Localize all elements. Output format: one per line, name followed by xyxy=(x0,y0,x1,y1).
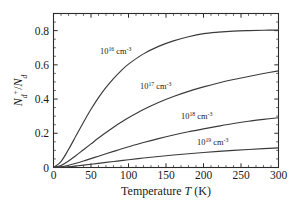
data-curve xyxy=(54,118,279,168)
y-tick-label: 0.8 xyxy=(35,25,50,37)
x-tick-label: 0 xyxy=(51,169,57,181)
figure-container: 05010015020025030000.20.40.60.81016cm-31… xyxy=(0,0,297,210)
y-tick-label: 0 xyxy=(43,162,49,174)
x-tick-label: 200 xyxy=(195,169,213,181)
x-tick-label: 100 xyxy=(120,169,138,181)
y-axis-title: Nd+/Nd xyxy=(11,74,29,107)
y-tick-label: 0.2 xyxy=(35,127,50,139)
y-tick-label: 0.4 xyxy=(35,93,50,105)
x-tick-label: 50 xyxy=(85,169,97,181)
x-tick-label: 250 xyxy=(232,169,250,181)
x-tick-label: 300 xyxy=(270,169,288,181)
chart-canvas: 05010015020025030000.20.40.60.81016cm-31… xyxy=(0,0,297,210)
y-tick-label: 0.6 xyxy=(35,59,50,71)
x-tick-label: 150 xyxy=(157,169,175,181)
curve-annotation: 1018cm-3 xyxy=(181,111,213,121)
curve-annotation: 1016cm-3 xyxy=(100,46,132,56)
curve-annotation: 1017cm-3 xyxy=(140,81,172,91)
curve-annotation: 1019cm-3 xyxy=(197,137,229,147)
x-axis-title: Temperature T (K) xyxy=(121,184,211,198)
